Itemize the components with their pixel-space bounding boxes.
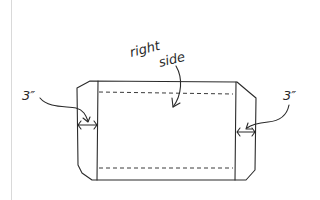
- left-leader-arrow-icon: [40, 98, 88, 121]
- fabric-diagram: right side 3″ 3″: [0, 0, 320, 200]
- right-leader-arrow-icon: [247, 105, 289, 128]
- right-side-arrow-icon: [173, 66, 181, 107]
- fabric-outline: [77, 81, 256, 180]
- right-side-label-line2: side: [157, 49, 186, 70]
- diagram-canvas: right side 3″ 3″: [0, 0, 320, 200]
- top-stitch-line: [99, 92, 233, 94]
- right-measurement-label: 3″: [283, 88, 296, 103]
- left-fold-line: [97, 81, 98, 180]
- left-measurement-label: 3″: [22, 88, 35, 103]
- right-fold-line: [235, 82, 236, 180]
